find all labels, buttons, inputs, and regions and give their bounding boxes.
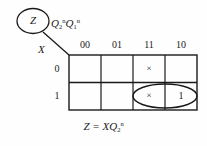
equation-rhs-sub: 2 bbox=[117, 126, 120, 133]
equation-rhs-sup: n bbox=[120, 120, 123, 127]
row-header-1: 1 bbox=[50, 91, 64, 101]
leader-line bbox=[43, 32, 69, 55]
equation-rhs-q: Q bbox=[109, 120, 117, 132]
equation-lhs: Z bbox=[83, 120, 89, 132]
column-header-10: 10 bbox=[165, 40, 197, 50]
column-header-11: 11 bbox=[133, 40, 165, 50]
cell-r0-c11: × bbox=[133, 64, 165, 73]
column-variable-q1-sup: n bbox=[77, 17, 80, 24]
output-bubble-label: Z bbox=[24, 15, 42, 26]
equation-operator: = bbox=[92, 120, 99, 132]
cell-r1-c11: × bbox=[133, 91, 165, 100]
column-variable-q2-sub: 2 bbox=[59, 23, 62, 30]
column-variable-label: Q2nQ1n bbox=[51, 18, 80, 31]
column-variable-q1-sub: 1 bbox=[73, 23, 76, 30]
column-header-01: 01 bbox=[101, 40, 133, 50]
row-variable-label: X bbox=[38, 44, 45, 55]
column-variable-q2: Q bbox=[51, 17, 59, 29]
cell-r1-c10: 1 bbox=[165, 91, 197, 101]
kmap-figure: Z Q2nQ1n X 00 01 11 10 0 1 × × 1 Z = XQ2… bbox=[0, 0, 207, 146]
row-header-0: 0 bbox=[50, 64, 64, 74]
column-header-00: 00 bbox=[69, 40, 101, 50]
result-equation: Z = XQ2n bbox=[0, 121, 207, 134]
